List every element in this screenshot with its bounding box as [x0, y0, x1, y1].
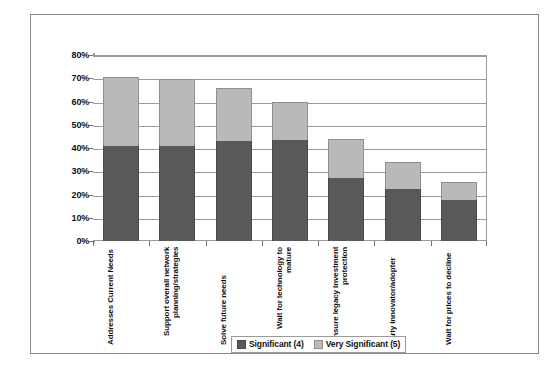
bar-segment-very-significant[interactable] — [385, 162, 421, 189]
y-axis-tick-label: 30% — [72, 166, 89, 176]
legend-label: Significant (4) — [249, 339, 304, 349]
stacked-bar[interactable] — [216, 88, 252, 241]
y-axis-tick-label: 50% — [72, 120, 89, 130]
bar-segment-significant[interactable] — [103, 146, 139, 241]
figure-frame: 0%10%20%30%40%50%60%70%80% Addresses Cur… — [30, 14, 539, 354]
category-axis-tick — [374, 241, 375, 246]
category-axis-tick — [262, 241, 263, 246]
y-axis-tick-label: 70% — [72, 73, 89, 83]
bar-segment-very-significant[interactable] — [103, 77, 139, 146]
category-label: Solve future needs — [219, 247, 249, 345]
y-axis-tick-label: 80% — [72, 50, 89, 60]
legend-swatch-icon — [314, 340, 323, 349]
y-axis: 0%10%20%30%40%50%60%70%80% — [59, 55, 89, 241]
bar-segment-very-significant[interactable] — [272, 102, 308, 140]
legend-item[interactable]: Very Significant (5) — [314, 339, 401, 349]
bar-segment-significant[interactable] — [441, 200, 477, 241]
y-axis-tick-label: 40% — [72, 143, 89, 153]
bar-segment-very-significant[interactable] — [328, 139, 364, 179]
bar-segment-very-significant[interactable] — [159, 79, 195, 145]
bar-column[interactable] — [441, 55, 477, 241]
bar-column[interactable] — [272, 55, 308, 241]
bar-segment-very-significant[interactable] — [441, 182, 477, 201]
category-axis-tick — [318, 241, 319, 246]
stacked-bar[interactable] — [328, 139, 364, 241]
category-labels: Addresses Current NeedsSupport overall n… — [93, 247, 487, 347]
bar-column[interactable] — [385, 55, 421, 241]
bar-column[interactable] — [159, 55, 195, 241]
category-axis-tick — [93, 241, 94, 246]
bar-segment-significant[interactable] — [272, 140, 308, 241]
y-axis-tick-label: 10% — [72, 213, 89, 223]
stacked-bar[interactable] — [272, 102, 308, 242]
category-label: Wait for prices to decline — [444, 247, 474, 345]
category-axis-tick — [206, 241, 207, 246]
legend-item[interactable]: Significant (4) — [237, 339, 304, 349]
bar-segment-significant[interactable] — [385, 189, 421, 241]
stacked-bar[interactable] — [441, 182, 477, 241]
legend-label: Very Significant (5) — [326, 339, 401, 349]
bar-segment-significant[interactable] — [216, 141, 252, 241]
chart-legend: Significant (4)Very Significant (5) — [231, 336, 406, 353]
stacked-bar[interactable] — [159, 79, 195, 241]
y-axis-tick-label: 0% — [76, 236, 89, 246]
category-label: Ensure legacy investment protection — [331, 247, 361, 345]
stacked-bar[interactable] — [385, 162, 421, 241]
bar-segment-significant[interactable] — [159, 146, 195, 241]
category-label: Addresses Current Needs — [106, 247, 136, 345]
category-axis-tick — [149, 241, 150, 246]
category-axis-tick — [486, 241, 487, 246]
bars-layer — [93, 55, 487, 241]
chart-screenshot: 0%10%20%30%40%50%60%70%80% Addresses Cur… — [0, 0, 555, 369]
legend-swatch-icon — [237, 340, 246, 349]
bar-segment-significant[interactable] — [328, 178, 364, 241]
y-axis-tick-label: 60% — [72, 97, 89, 107]
bar-column[interactable] — [103, 55, 139, 241]
y-axis-tick-label: 20% — [72, 190, 89, 200]
bar-column[interactable] — [216, 55, 252, 241]
bar-column[interactable] — [328, 55, 364, 241]
category-label: Support overall network planning/strateg… — [162, 247, 192, 345]
bar-segment-very-significant[interactable] — [216, 88, 252, 141]
category-label: Early innovator/adopter — [388, 247, 418, 345]
category-label: Wait for technology to mature — [275, 247, 305, 345]
category-axis-tick — [431, 241, 432, 246]
stacked-bar[interactable] — [103, 77, 139, 241]
